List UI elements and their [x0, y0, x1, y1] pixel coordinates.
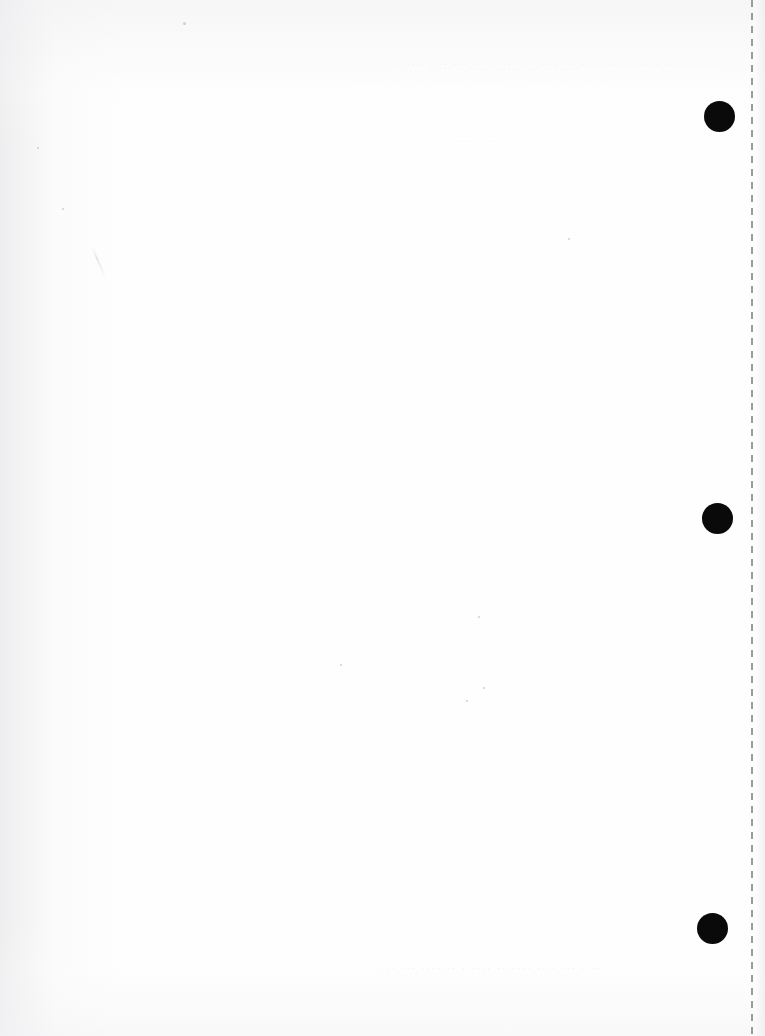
- dashed-cut-line-icon: [751, 0, 753, 1036]
- paper-surface: [0, 0, 765, 1036]
- punch-mark-top: [704, 101, 735, 132]
- scanned-page: · · ·· ·· ·· ···· ·· ···· · ·· ··· ···· …: [0, 0, 765, 1036]
- punch-mark-middle: [702, 503, 733, 534]
- punch-mark-bottom: [697, 913, 728, 944]
- dashed-cut-line: [751, 0, 753, 1036]
